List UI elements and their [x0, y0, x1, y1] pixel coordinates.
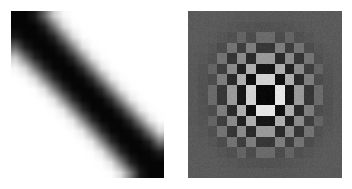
spatial-domain-heatmap-canvas [11, 11, 164, 178]
spatial-domain-matrix-panel [11, 11, 164, 178]
frequency-domain-heatmap-canvas [188, 11, 342, 178]
frequency-domain-matrix-panel [188, 11, 342, 178]
figure-root [0, 0, 352, 189]
